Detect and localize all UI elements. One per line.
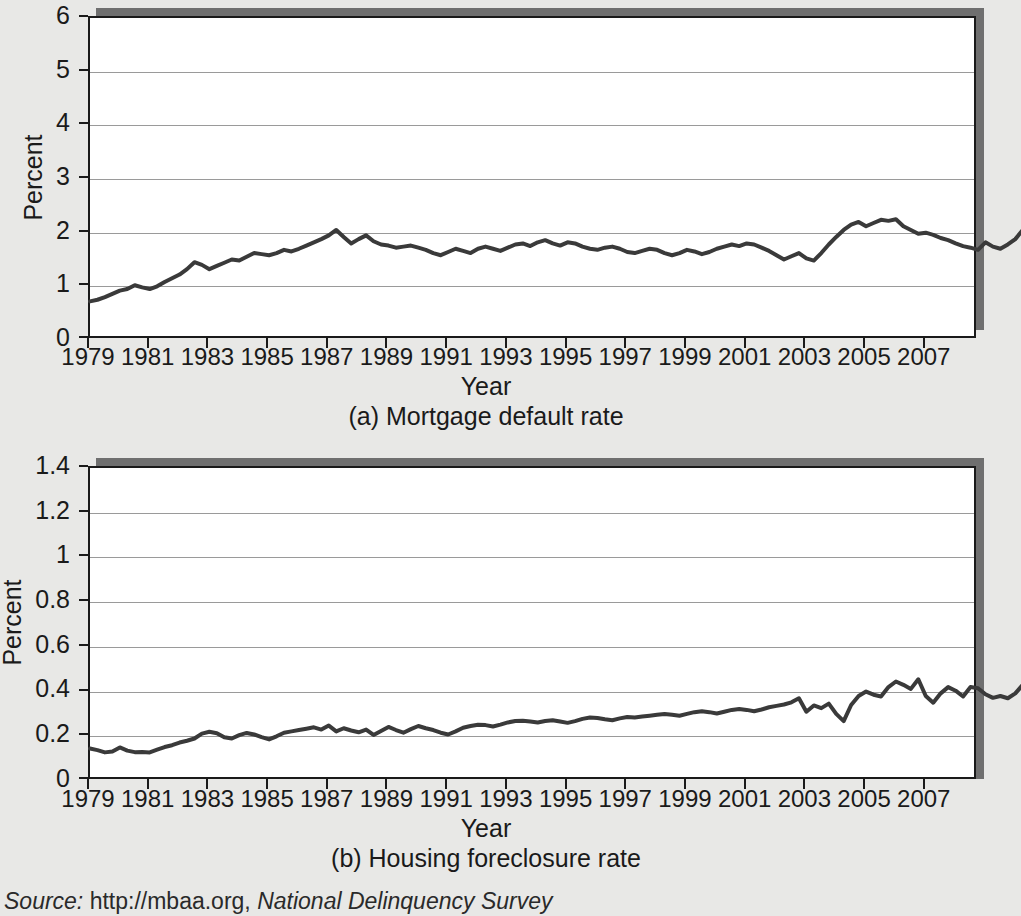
panel-a-ytick-mark — [79, 283, 88, 285]
panel-a-plot-area — [88, 16, 976, 338]
panel-mortgage-default-rate: 6 5 4 3 2 1 0 Percent 197919811983198519… — [0, 0, 1021, 430]
panel-a-ytick-mark — [79, 176, 88, 178]
xticks-b-tick-label: 2007 — [889, 786, 959, 812]
panel-b-plot-area — [88, 466, 976, 779]
panel-b-y-axis-title: Percent — [0, 563, 27, 683]
panel-b-ytick-mark — [79, 465, 88, 467]
panel-b-ytick-label: 1.2 — [0, 498, 70, 523]
xticks-a-tick-label: 2007 — [889, 344, 959, 370]
source-note: Source: http://mbaa.org, National Delinq… — [4, 888, 552, 915]
panel-a-ytick-mark — [79, 15, 88, 17]
panel-b-ytick-label: 1.4 — [0, 453, 70, 478]
panel-b-ytick-mark — [79, 510, 88, 512]
figure-mortgage-foreclosure: 6 5 4 3 2 1 0 Percent 197919811983198519… — [0, 0, 1021, 916]
panel-b-ytick-mark — [79, 599, 88, 601]
panel-b-ytick-mark — [79, 644, 88, 646]
source-survey-title: National Delinquency Survey — [257, 888, 552, 914]
panel-housing-foreclosure-rate: 1.4 1.2 1 0.8 0.6 0.4 0.2 0 Percent 1979… — [0, 440, 1021, 916]
panel-b-data-line — [90, 468, 978, 781]
panel-a-ytick-mark — [79, 69, 88, 71]
source-url: http://mbaa.org, — [83, 888, 257, 914]
panel-b-caption: (b) Housing foreclosure rate — [286, 844, 686, 873]
panel-b-ytick-mark — [79, 733, 88, 735]
panel-b-ytick-mark — [79, 689, 88, 691]
panel-a-ytick-label: 5 — [28, 57, 70, 82]
panel-a-ytick-mark — [79, 122, 88, 124]
panel-a-caption: (a) Mortgage default rate — [286, 402, 686, 431]
panel-a-y-axis-title: Percent — [19, 118, 48, 238]
source-label: Source: — [4, 888, 83, 914]
panel-a-ytick-label: 1 — [28, 271, 70, 296]
panel-b-ytick-mark — [79, 554, 88, 556]
panel-b-x-axis-title: Year — [386, 814, 586, 843]
panel-a-x-axis-title: Year — [386, 372, 586, 401]
panel-a-data-line — [90, 18, 978, 340]
panel-a-ytick-label: 6 — [28, 3, 70, 28]
panel-b-ytick-label: 0.2 — [0, 721, 70, 746]
panel-a-ytick-mark — [79, 230, 88, 232]
